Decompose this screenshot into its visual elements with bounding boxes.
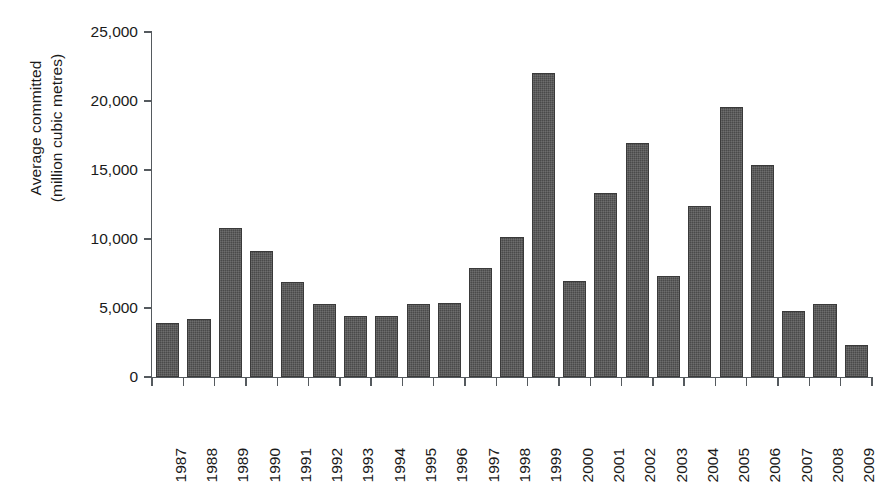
x-axis-tick-label-1992: 1992 (314, 392, 334, 450)
x-axis-tick-label-1988: 1988 (189, 392, 209, 450)
x-axis-tick (402, 378, 403, 386)
x-axis-line (151, 377, 873, 378)
bar-1991 (281, 282, 304, 377)
x-axis-tick-label-2008: 2008 (815, 392, 835, 450)
bar-1989 (219, 228, 242, 377)
x-axis-tick-label-1990: 1990 (252, 392, 272, 450)
x-axis-tick-label-2009: 2009 (846, 392, 866, 450)
plot-area (152, 32, 872, 377)
bar-1990 (250, 251, 273, 377)
bar-1997 (469, 268, 492, 377)
bar-1999 (532, 73, 555, 377)
x-axis-tick-label-1995: 1995 (408, 392, 428, 450)
bar-1992 (313, 304, 336, 377)
y-axis-tick-label: 15,000 (52, 162, 138, 178)
y-axis-tick-label: 5,000 (52, 300, 138, 316)
x-axis-tick (621, 378, 622, 386)
bar-1988 (187, 319, 210, 377)
x-axis-tick (590, 378, 591, 386)
y-axis-tick-label: 10,000 (52, 231, 138, 247)
bar-2003 (657, 276, 680, 377)
bar-2008 (813, 304, 836, 377)
x-axis-tick (339, 378, 340, 386)
x-axis-tick (683, 378, 684, 386)
y-axis-title-line-1: Average committed (27, 0, 47, 278)
x-axis-tick-label-1996: 1996 (439, 392, 459, 450)
bar-2000 (563, 281, 586, 377)
x-axis-tick (151, 378, 152, 386)
bar-1993 (344, 316, 367, 377)
bar-2002 (626, 143, 649, 377)
x-axis-tick (277, 378, 278, 386)
bar-2009 (845, 345, 868, 377)
x-axis-tick-label-1994: 1994 (377, 392, 397, 450)
x-axis-tick-label-2007: 2007 (784, 392, 804, 450)
x-axis-tick (715, 378, 716, 386)
bar-1987 (156, 323, 179, 377)
bar-2004 (688, 206, 711, 377)
x-axis-tick (433, 378, 434, 386)
x-axis-tick-label-1993: 1993 (345, 392, 365, 450)
x-axis-tick (370, 378, 371, 386)
y-axis-tick-label: 20,000 (52, 93, 138, 109)
bar-2001 (594, 193, 617, 377)
x-axis-tick (464, 378, 465, 386)
x-axis-tick-label-2000: 2000 (565, 392, 585, 450)
x-axis-tick (746, 378, 747, 386)
x-axis-tick (652, 378, 653, 386)
y-axis-tick-label: 0 (52, 369, 138, 385)
x-axis-tick-label-1997: 1997 (471, 392, 491, 450)
x-axis-tick (527, 378, 528, 386)
bar-1996 (438, 303, 461, 377)
x-axis-tick-label-2002: 2002 (627, 392, 647, 450)
x-axis-tick (871, 378, 872, 386)
x-axis-tick (496, 378, 497, 386)
x-axis-tick-label-1987: 1987 (158, 392, 178, 450)
x-axis-tick-label-1991: 1991 (283, 392, 303, 450)
x-axis-tick-label-1999: 1999 (533, 392, 553, 450)
x-axis-tick (183, 378, 184, 386)
x-axis-tick (558, 378, 559, 386)
bar-1998 (500, 237, 523, 377)
x-axis-tick (840, 378, 841, 386)
bar-2005 (720, 107, 743, 377)
y-axis-tick-label: 25,000 (52, 24, 138, 40)
bar-1995 (407, 304, 430, 377)
x-axis-tick-label-1989: 1989 (220, 392, 240, 450)
x-axis-tick (214, 378, 215, 386)
x-axis-tick-label-2004: 2004 (690, 392, 710, 450)
bar-1994 (375, 316, 398, 377)
x-axis-tick (245, 378, 246, 386)
x-axis-tick (809, 378, 810, 386)
x-axis-tick-label-2001: 2001 (596, 392, 616, 450)
x-axis-tick-label-1998: 1998 (502, 392, 522, 450)
x-axis-tick-label-2005: 2005 (721, 392, 741, 450)
x-axis-tick-label-2006: 2006 (752, 392, 772, 450)
bar-2007 (782, 311, 805, 377)
x-axis-tick (777, 378, 778, 386)
bar-2006 (751, 165, 774, 377)
x-axis-tick-label-2003: 2003 (659, 392, 679, 450)
y-axis-tick-labels: 05,00010,00015,00020,00025,000 (52, 0, 138, 449)
x-axis-tick (308, 378, 309, 386)
